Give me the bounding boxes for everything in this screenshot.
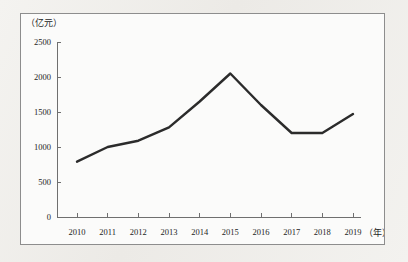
data-series-line <box>77 74 353 162</box>
y-axis-tick-label: 1500 <box>34 107 51 117</box>
x-axis-tick-label: 2014 <box>191 227 209 237</box>
x-axis-tick-label: 2010 <box>69 227 86 237</box>
x-axis-tick-label: 2011 <box>99 227 116 237</box>
x-axis-tick-label: 2016 <box>253 227 270 237</box>
x-axis-tick-label: 2013 <box>161 227 178 237</box>
x-axis-tick-label: 2019 <box>345 227 362 237</box>
x-axis-tick-label: 2012 <box>130 227 147 237</box>
y-axis-tick-label: 500 <box>38 177 51 187</box>
line-chart: （亿元） 05001000150020002500 20102011201220… <box>21 14 384 244</box>
y-axis-unit-label: （亿元） <box>26 17 62 28</box>
y-axis-tick-label: 2500 <box>34 37 51 47</box>
x-axis-tick-label: 2017 <box>283 227 300 237</box>
y-axis-tick-label: 0 <box>47 212 51 222</box>
x-axis-tick-label: 2018 <box>314 227 331 237</box>
x-axis-tick-label: 2015 <box>222 227 239 237</box>
x-axis-unit-label: （年） <box>364 227 384 238</box>
chart-figure-frame: （亿元） 05001000150020002500 20102011201220… <box>20 13 385 245</box>
y-axis-tick-label: 1000 <box>34 142 51 152</box>
y-axis-tick-label: 2000 <box>34 72 51 82</box>
